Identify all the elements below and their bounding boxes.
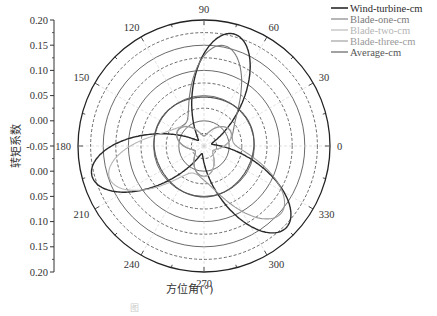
angular-tick-label: 0: [337, 141, 342, 152]
angular-tick: [115, 57, 117, 59]
angular-tick-label: 180: [55, 141, 71, 152]
radial-tick-label: 0.05: [30, 191, 48, 202]
radial-tick-label: 0.00: [30, 115, 48, 126]
radial-tick-label: 0.10: [30, 65, 48, 76]
radial-tick-label: 0.15: [30, 40, 48, 51]
legend-label: Blade-two-cm: [350, 25, 410, 36]
legend-label: Blade-three-cm: [350, 36, 415, 47]
legend-label: Average-cm: [350, 47, 401, 58]
angular-tick: [115, 233, 117, 235]
radial-tick-label: 0.10: [30, 216, 48, 227]
angular-tick-label: 120: [124, 22, 140, 33]
angular-tick: [291, 57, 293, 59]
polar-grid: [78, 20, 330, 272]
angular-tick-label: 300: [269, 259, 285, 270]
radial-tick-label: 0.20: [30, 15, 48, 26]
grid-spoke: [204, 37, 267, 146]
angular-tick-label: 330: [319, 209, 335, 220]
angular-tick-label: 150: [74, 72, 90, 83]
angular-tick-label: 30: [319, 72, 330, 83]
angular-tick: [95, 83, 99, 86]
angular-tick: [291, 233, 293, 235]
angular-tick: [265, 37, 268, 41]
angular-tick-label: 210: [74, 209, 90, 220]
radial-tick-label: 0.05: [30, 90, 48, 101]
angular-tick: [309, 83, 313, 86]
radial-tick-label: 0.20: [30, 267, 48, 278]
angular-tick-label: 240: [124, 259, 140, 270]
series-wind-turbine-cm: [92, 34, 291, 233]
radial-tick-label: 0.00: [30, 166, 48, 177]
polar-chart: 0.200.150.100.050.00-0.050.000.050.100.1…: [0, 0, 437, 316]
grid-spoke: [204, 146, 313, 209]
data-curves: [92, 34, 291, 233]
angular-tick-label: 60: [269, 22, 280, 33]
radial-tick-label: -0.05: [26, 141, 48, 152]
angular-tick-label: 90: [199, 4, 210, 15]
angular-tick: [141, 37, 144, 41]
figure-caption: 图: [130, 303, 139, 313]
angular-tick: [265, 251, 268, 255]
legend: Wind-turbine-cmBlade-one-cmBlade-two-cmB…: [331, 3, 422, 58]
angular-tick: [141, 251, 144, 255]
grid-spoke: [95, 146, 204, 209]
radial-axis: 0.200.150.100.050.00-0.050.000.050.100.1…: [26, 15, 54, 278]
y-axis-title: 转矩系数: [9, 124, 23, 168]
x-axis-title: 方位角(°): [166, 282, 213, 296]
angular-tick: [95, 207, 99, 210]
legend-label: Blade-one-cm: [350, 14, 409, 25]
angular-tick: [309, 207, 313, 210]
legend-label: Wind-turbine-cm: [350, 3, 422, 14]
grid-spoke: [204, 146, 267, 255]
series-blade-one-cm: [177, 45, 242, 176]
radial-tick-label: 0.15: [30, 241, 48, 252]
